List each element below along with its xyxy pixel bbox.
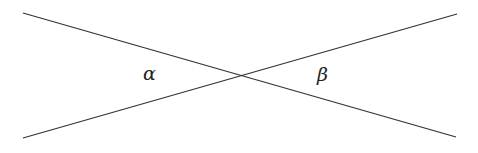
line-1 [23, 13, 456, 137]
line-2 [23, 14, 457, 138]
angle-label-beta: β [316, 63, 328, 85]
angle-diagram: α β [0, 0, 478, 153]
angle-label-alpha: α [143, 62, 156, 84]
diagram-svg: α β [0, 0, 478, 153]
